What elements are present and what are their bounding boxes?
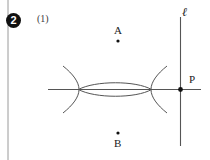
lens-lower-arc [79, 90, 152, 97]
point-p-label: P [189, 74, 195, 85]
problem-number-badge: 2 [6, 13, 21, 28]
point-b-label: B [114, 138, 121, 149]
point-a-dot [116, 39, 119, 42]
point-a-label: A [114, 25, 122, 36]
sub-question-number: (1) [37, 14, 49, 24]
point-p-dot [178, 87, 183, 92]
lens-upper-arc [79, 83, 152, 90]
line-l-label: ℓ [182, 6, 187, 18]
figure-page: 2 (1) A B P ℓ [0, 0, 210, 160]
point-b-dot [116, 131, 119, 134]
geometry-construction-figure [0, 0, 210, 160]
